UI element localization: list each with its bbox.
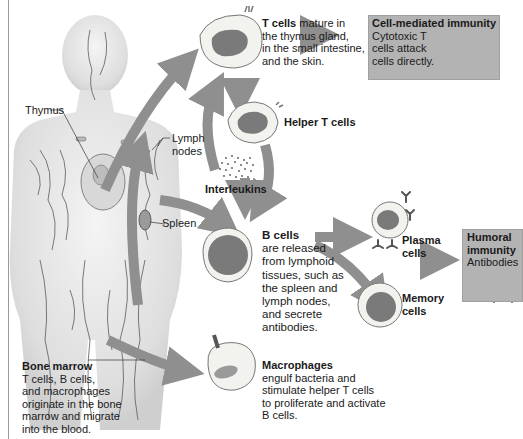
bone-marrow-title: Bone marrow	[22, 360, 92, 372]
cell-mediated-line: cells attack	[372, 42, 496, 55]
humoral-immunity-text: Humoral immunity Antibodies	[467, 231, 518, 269]
cell-mediated-immunity-text: Cell-mediated immunity Cytotoxic T cells…	[372, 17, 496, 67]
interleukins-label: Interleukins	[205, 183, 267, 196]
macrophages-line: B cells.	[262, 409, 386, 422]
bone-marrow-line: marrow and migrate	[22, 410, 122, 423]
b-cell-illustration	[203, 228, 252, 282]
t-cells-line: and the skin.	[262, 55, 365, 68]
bone-marrow-line: T cells, B cells,	[22, 373, 122, 386]
memory-title: Memory	[402, 292, 444, 304]
t-cells-label: T cells mature in the thymus gland, in t…	[262, 17, 365, 67]
b-cells-line: the spleen and	[262, 282, 344, 295]
macrophages-title: Macrophages	[262, 359, 333, 371]
cell-mediated-line: cells directly.	[372, 55, 496, 68]
t-cells-title: T cells	[262, 17, 296, 29]
bone-marrow-label: Bone marrow T cells, B cells, and macrop…	[22, 360, 122, 435]
b-cells-line: from lymphoid	[262, 255, 344, 268]
macrophages-line: stimulate helper T cells	[262, 384, 386, 397]
b-cells-line: are released	[262, 242, 344, 255]
interleukins-title: Interleukins	[205, 183, 267, 195]
spleen-label: Spleen	[162, 217, 196, 230]
t-cells-line: mature in	[296, 17, 345, 29]
t-cells-line: in the small intestine,	[262, 42, 365, 55]
lymph-nodes-label: Lymph nodes	[172, 132, 205, 157]
b-cells-label: B cells are released from lymphoid tissu…	[262, 229, 344, 335]
plasma-title: Plasma	[402, 234, 441, 246]
b-cells-line: and secrete	[262, 308, 344, 321]
humoral-subtitle: Antibodies	[467, 256, 518, 269]
bone-marrow-line: into the blood.	[22, 423, 122, 436]
macrophages-label: Macrophages engulf bacteria and stimulat…	[262, 359, 386, 422]
helper-t-title: Helper T cells	[284, 116, 356, 128]
bone-marrow-line: and macrophages	[22, 385, 122, 398]
humoral-title: Humoral	[467, 231, 518, 244]
humoral-title: immunity	[467, 244, 518, 257]
interleukins-dots	[219, 155, 254, 178]
lymph-label-line: Lymph	[172, 132, 205, 145]
helper-t-cells-label: Helper T cells	[284, 116, 356, 129]
macrophage-illustration	[208, 335, 256, 390]
b-cells-line: lymph nodes,	[262, 295, 344, 308]
b-cells-title: B cells	[262, 229, 299, 241]
memory-cells-label: Memory cells	[402, 292, 444, 317]
thymus-label: Thymus	[25, 104, 64, 117]
plasma-cell-illustration	[372, 202, 408, 238]
b-cells-line: tissues, such as	[262, 269, 344, 282]
b-cells-line: antibodies.	[262, 321, 344, 334]
helper-t-cell-illustration	[228, 102, 283, 143]
plasma-cells-label: Plasma cells	[402, 234, 441, 259]
plasma-title: cells	[402, 247, 426, 259]
t-cells-line: the thymus gland,	[262, 30, 365, 43]
t-cell-illustration	[200, 6, 262, 68]
lymph-label-line: nodes	[172, 145, 205, 158]
cell-mediated-line: Cytotoxic T	[372, 30, 496, 43]
bone-marrow-line: originate in the bone	[22, 398, 122, 411]
memory-cell-illustration	[358, 283, 402, 327]
memory-title: cells	[402, 305, 426, 317]
cell-mediated-title: Cell-mediated immunity	[372, 17, 496, 30]
macrophages-line: engulf bacteria and	[262, 372, 386, 385]
macrophages-line: to proliferate and activate	[262, 397, 386, 410]
